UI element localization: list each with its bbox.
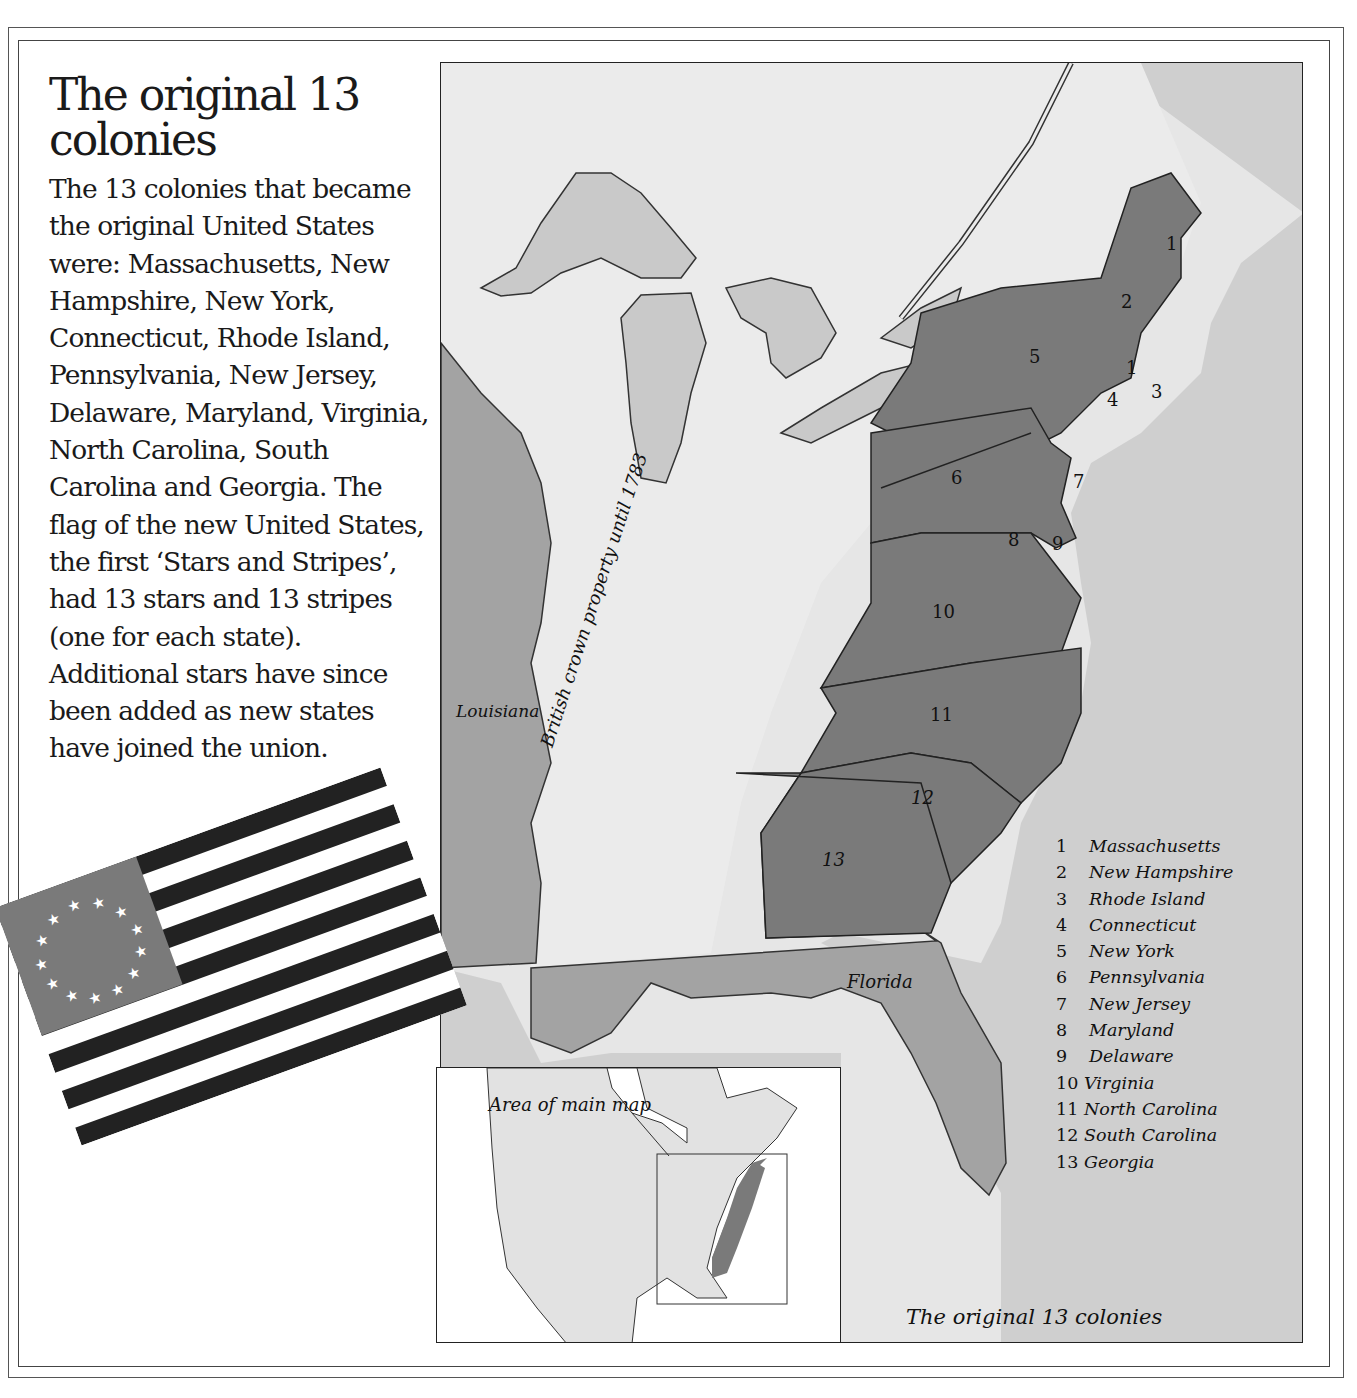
legend-item: 7New Jersey [1056, 991, 1233, 1017]
inset-map: Area of main map [436, 1067, 841, 1343]
legend-item: 12South Carolina [1056, 1122, 1233, 1148]
colony-number-ma: 1 [1126, 357, 1137, 378]
colony-number-ny: 5 [1029, 346, 1040, 367]
legend-item: 10Virginia [1056, 1070, 1233, 1096]
inset-label: Area of main map [489, 1094, 651, 1115]
colony-number-ma-north: 1 [1166, 233, 1177, 254]
legend-item: 11North Carolina [1056, 1096, 1233, 1122]
page-title: The original 13 colonies [49, 72, 429, 162]
colony-number-nj: 7 [1073, 471, 1084, 492]
legend-item: 4Connecticut [1056, 912, 1233, 938]
colony-number-va: 10 [932, 601, 955, 622]
legend-item: 2New Hampshire [1056, 859, 1233, 885]
legend-item: 6Pennsylvania [1056, 964, 1233, 990]
colony-number-ct: 4 [1107, 389, 1118, 410]
label-florida: Florida [847, 971, 913, 992]
legend-item: 1Massachusetts [1056, 833, 1233, 859]
legend-item: 5New York [1056, 938, 1233, 964]
colony-number-md: 8 [1008, 529, 1019, 550]
colony-number-de: 9 [1052, 533, 1063, 554]
colony-number-nc: 11 [930, 704, 953, 725]
map-legend: 1Massachusetts 2New Hampshire 3Rhode Isl… [1056, 833, 1233, 1175]
colony-number-sc: 12 [911, 787, 934, 808]
map-caption: The original 13 colonies [906, 1305, 1162, 1329]
colony-number-pa: 6 [951, 467, 962, 488]
legend-item: 3Rhode Island [1056, 886, 1233, 912]
colony-number-ga: 13 [822, 849, 845, 870]
legend-item: 13Georgia [1056, 1149, 1233, 1175]
legend-item: 8Maryland [1056, 1017, 1233, 1043]
colony-number-ri: 3 [1151, 381, 1162, 402]
legend-item: 9Delaware [1056, 1043, 1233, 1069]
body-text: The 13 colonies that became the original… [49, 170, 429, 767]
label-louisiana: Louisiana [456, 701, 539, 721]
colony-number-nh: 2 [1121, 291, 1132, 312]
